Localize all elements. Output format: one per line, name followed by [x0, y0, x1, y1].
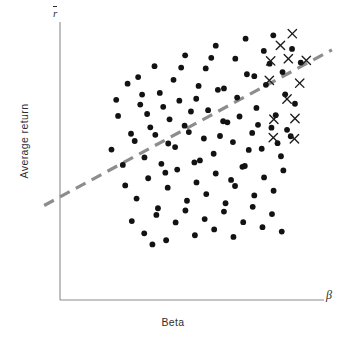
data-point-dot [193, 96, 199, 102]
data-point-dot [120, 162, 126, 168]
data-point-dot [188, 109, 194, 115]
data-point-dot [259, 146, 265, 152]
data-point-dot [163, 237, 169, 243]
data-point-dot [261, 48, 267, 54]
data-point-dot [128, 131, 134, 137]
data-point-dot [182, 52, 188, 58]
data-point-dot [217, 133, 223, 139]
data-point-dot [167, 116, 173, 122]
data-point-dot [270, 32, 276, 38]
data-point-dot [260, 224, 266, 230]
data-point-dot [237, 114, 243, 120]
data-point-dot [234, 95, 240, 101]
data-point-dot [176, 98, 182, 104]
data-point-dot [115, 113, 121, 119]
data-point-dot [160, 104, 166, 110]
data-point-dot [213, 171, 219, 177]
data-point-dot [142, 154, 148, 160]
data-point-dot [232, 183, 238, 189]
data-point-dot [153, 212, 159, 218]
data-point-dot [157, 90, 163, 96]
data-point-dot [141, 230, 147, 236]
data-point-dot [244, 71, 250, 77]
data-point-dot [284, 127, 290, 133]
data-point-dot [173, 220, 179, 226]
data-point-dot [174, 167, 180, 173]
data-point-dot [254, 105, 260, 111]
data-point-dot [192, 232, 198, 238]
scatter-plot-figure: r β Beta Average return [0, 0, 346, 343]
data-point-dot [165, 141, 171, 147]
y-axis-title: Average return [18, 91, 30, 191]
data-point-dot [135, 74, 141, 80]
data-point-cross [288, 29, 296, 37]
data-point-dot [208, 55, 214, 61]
data-point-dot [246, 147, 252, 153]
data-point-dot [242, 163, 248, 169]
data-point-cross [276, 41, 284, 49]
x-axis-symbol: β [326, 289, 332, 301]
data-point-dot [197, 158, 203, 164]
data-point-dot [194, 180, 200, 186]
plot-canvas [0, 0, 346, 343]
data-point-dot [211, 226, 217, 232]
data-point-dot [139, 92, 145, 98]
data-point-dot [292, 101, 298, 107]
data-point-dot [251, 73, 257, 79]
data-point-dot [280, 69, 286, 75]
data-point-dot [278, 153, 284, 159]
data-point-dot [162, 170, 168, 176]
y-axis-symbol: r [53, 6, 57, 19]
data-point-dot [134, 196, 140, 202]
data-point-dot [255, 122, 261, 128]
data-point-dot [113, 97, 119, 103]
data-point-dot [221, 86, 227, 92]
data-point-cross [291, 114, 299, 122]
data-point-dot [251, 193, 257, 199]
data-point-dot [203, 191, 209, 197]
data-point-dot [213, 43, 219, 49]
data-point-dot [205, 107, 211, 113]
data-point-dot [172, 144, 178, 150]
data-point-dot [132, 138, 138, 144]
x-axis-title: Beta [0, 316, 346, 328]
data-point-dot [191, 159, 197, 165]
data-point-dot [150, 242, 156, 248]
data-point-dot [144, 111, 150, 117]
data-point-dot [155, 205, 161, 211]
data-point-dot [231, 234, 237, 240]
data-point-dot [178, 65, 184, 71]
data-point-dot [183, 208, 189, 214]
data-point-dot [129, 218, 135, 224]
data-point-dot [263, 82, 269, 88]
data-point-dot [249, 130, 255, 136]
data-point-cross [296, 79, 304, 87]
data-point-cross [269, 133, 277, 141]
data-point-dot [289, 46, 295, 52]
data-point-dot [171, 77, 177, 83]
data-point-dot [203, 66, 209, 72]
data-point-dot [230, 139, 236, 145]
data-point-dot [280, 168, 286, 174]
data-point-dot [240, 219, 246, 225]
data-point-dot [147, 124, 153, 130]
data-point-dot [211, 151, 217, 157]
data-point-dot [215, 87, 221, 93]
data-point-dot [223, 200, 229, 206]
data-point-dot [261, 175, 267, 181]
data-point-dot [221, 209, 227, 215]
data-point-dot [145, 175, 151, 181]
data-point-dot [201, 136, 207, 142]
data-point-dot [125, 81, 131, 87]
data-point-dot [269, 125, 275, 131]
data-point-dot [202, 216, 208, 222]
y-axis-symbol-text: r [53, 6, 57, 19]
data-point-dot [184, 198, 190, 204]
data-point-dot [269, 211, 275, 217]
data-point-dot [279, 229, 285, 235]
data-point-dot [152, 63, 158, 69]
data-point-dot [220, 118, 226, 124]
data-point-dot [250, 204, 256, 210]
data-point-dot [152, 132, 158, 138]
data-point-dot [158, 161, 164, 167]
